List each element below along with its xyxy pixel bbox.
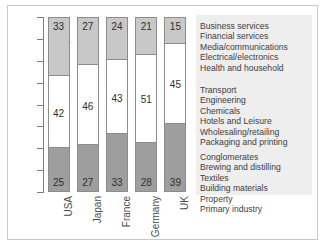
- y-axis-tick: [37, 192, 44, 193]
- segment-value-low: 25: [49, 177, 69, 188]
- legend-item: Hotels and Leisure: [200, 116, 312, 126]
- legend-item: Textiles: [200, 173, 312, 183]
- segment-value-high: 21: [136, 21, 156, 32]
- segment-value-low: 27: [78, 177, 98, 188]
- legend-item: Financial services: [200, 31, 312, 41]
- segment-medium: 46: [78, 65, 98, 146]
- legend-item: Business services: [200, 21, 312, 31]
- y-axis-tick: [37, 61, 44, 62]
- legend-item: Engineering: [200, 95, 312, 105]
- segment-value-high: 15: [165, 21, 185, 32]
- segment-low: 33: [107, 133, 127, 191]
- segment-high: 15: [165, 18, 185, 44]
- legend-item: Primary industry: [200, 204, 312, 214]
- x-axis-label: UK: [179, 196, 190, 252]
- legend-group-high: Business servicesFinancial servicesMedia…: [200, 21, 312, 73]
- plot-area: 334225274627244333215128154539: [44, 17, 190, 192]
- segment-medium: 51: [136, 55, 156, 144]
- y-axis-tick: [37, 83, 44, 84]
- x-axis-label: France: [121, 196, 132, 252]
- legend-item: Conglomerates: [200, 152, 312, 162]
- legend-item: Property: [200, 194, 312, 204]
- legend-item: Chemicals: [200, 106, 312, 116]
- segment-value-high: 27: [78, 21, 98, 32]
- segment-value-medium: 43: [107, 92, 127, 103]
- legend-item: Brewing and distilling: [200, 162, 312, 172]
- segment-value-high: 33: [49, 21, 69, 32]
- segment-medium: 43: [107, 60, 127, 135]
- y-axis-tick: [37, 17, 44, 18]
- segment-medium: 42: [49, 76, 69, 150]
- segment-high: 27: [78, 18, 98, 65]
- segment-value-medium: 42: [49, 107, 69, 118]
- segment-low: 39: [165, 123, 185, 191]
- segment-value-medium: 45: [165, 78, 185, 89]
- segment-value-medium: 51: [136, 94, 156, 105]
- legend-item: Transport: [200, 85, 312, 95]
- y-axis-tick: [37, 148, 44, 149]
- segment-low: 28: [136, 142, 156, 191]
- legend-group-low: ConglomeratesBrewing and distillingTexti…: [200, 152, 312, 214]
- legend-group-medium: TransportEngineeringChemicalsHotels and …: [200, 85, 312, 147]
- segment-high: 24: [107, 18, 127, 60]
- bar-usa[interactable]: 334225: [48, 17, 70, 192]
- chart-figure: HighMediumLow 33422527462724433321512815…: [0, 0, 326, 252]
- segment-low: 27: [78, 144, 98, 191]
- legend-item: Wholesaling/retailing: [200, 127, 312, 137]
- segment-low: 25: [49, 147, 69, 191]
- legend-item: Electrical/electronics: [200, 52, 312, 62]
- legend-item: Media/communications: [200, 42, 312, 52]
- segment-high: 33: [49, 18, 69, 76]
- bar-japan[interactable]: 274627: [77, 17, 99, 192]
- legend-item: Packaging and printing: [200, 137, 312, 147]
- segment-high: 21: [136, 18, 156, 55]
- segment-value-low: 39: [165, 177, 185, 188]
- segment-medium: 45: [165, 44, 185, 123]
- x-axis-label: Japan: [92, 196, 103, 252]
- legend-item: Building materials: [200, 183, 312, 193]
- x-axis-label: Germany: [150, 196, 161, 252]
- legend-item: Health and household: [200, 63, 312, 73]
- bar-france[interactable]: 244333: [106, 17, 128, 192]
- segment-value-high: 24: [107, 21, 127, 32]
- segment-value-low: 28: [136, 177, 156, 188]
- y-axis-tick: [37, 126, 44, 127]
- bar-germany[interactable]: 215128: [135, 17, 157, 192]
- x-axis-label: USA: [63, 196, 74, 252]
- legend-panel: Business servicesFinancial servicesMedia…: [196, 15, 312, 195]
- segment-value-low: 33: [107, 177, 127, 188]
- segment-value-medium: 46: [78, 100, 98, 111]
- bar-uk[interactable]: 154539: [164, 17, 186, 192]
